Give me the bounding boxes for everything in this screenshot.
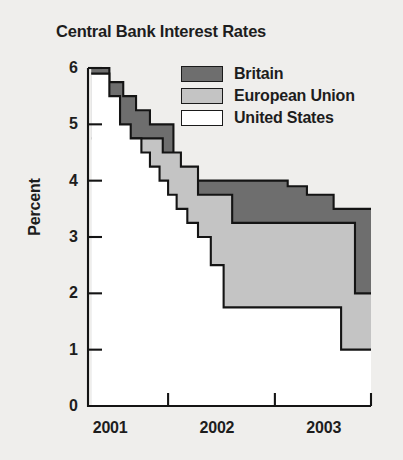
y-tick-5: 5 <box>52 116 78 132</box>
legend-swatch-icon <box>181 88 223 104</box>
legend-swatch-icon <box>181 110 223 126</box>
legend-label: European Union <box>234 88 355 104</box>
y-tick-4: 4 <box>52 173 78 189</box>
legend-label: United States <box>234 110 334 126</box>
y-tick-2: 2 <box>52 285 78 301</box>
y-tick-3: 3 <box>52 229 78 245</box>
y-tick-1: 1 <box>52 342 78 358</box>
legend-label: Britain <box>234 66 283 82</box>
x-tick-2003: 2003 <box>306 419 341 437</box>
legend-item-european-union: European Union <box>181 88 355 104</box>
x-tick-2002: 2002 <box>199 419 234 437</box>
chart-figure: Central Bank Interest Rates Percent 6543… <box>0 0 403 460</box>
x-tick-2001: 2001 <box>93 419 128 437</box>
y-tick-6: 6 <box>52 60 78 76</box>
legend-item-united-states: United States <box>181 110 355 126</box>
y-axis-label: Percent <box>26 152 44 262</box>
chart-legend: BritainEuropean UnionUnited States <box>181 66 355 126</box>
y-tick-0: 0 <box>52 398 78 414</box>
legend-item-britain: Britain <box>181 66 355 82</box>
legend-swatch-icon <box>181 66 223 82</box>
